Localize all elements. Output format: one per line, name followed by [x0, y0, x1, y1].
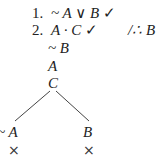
branch-left: ~ A — [0, 125, 18, 140]
branch-right: B — [83, 125, 92, 140]
closed-branch-icon: × — [83, 143, 95, 157]
closed-branch-icon: × — [8, 143, 20, 157]
